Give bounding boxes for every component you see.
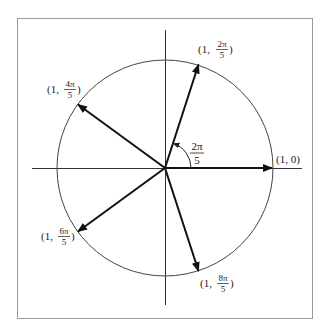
label-numerator: 6π	[59, 226, 69, 236]
vector-4pi-5	[78, 105, 165, 169]
label-prefix: (1,	[276, 153, 291, 166]
label-denominator: 5	[221, 284, 226, 294]
vector-6pi-5	[78, 168, 165, 232]
label-suffix: )	[77, 83, 81, 96]
label-prefix: (1,	[200, 277, 212, 290]
label-denominator: 5	[62, 237, 67, 247]
label-1-0-text: (1, 0)	[276, 153, 300, 166]
label-numerator: 4π	[65, 79, 75, 89]
label-1-4pi-5: (1, 4π 5 )	[47, 79, 81, 100]
label-1-8pi-5: (1, 8π 5 )	[200, 273, 234, 294]
label-suffix: )	[229, 43, 233, 56]
vectors	[78, 65, 272, 272]
label-prefix: (1,	[41, 230, 53, 243]
unit-circle-diagram: 2π 5 (1, 0) (1, 2π 5 ) (1, 4π 5 ) (1, 6π…	[0, 0, 329, 334]
label-suffix: )	[230, 277, 234, 290]
label-suffix: )	[296, 153, 300, 166]
angle-label-numerator: 2π	[191, 140, 203, 152]
label-denominator: 5	[220, 50, 225, 60]
label-prefix: (1,	[47, 83, 59, 96]
label-prefix: (1,	[198, 43, 210, 56]
vector-8pi-5	[165, 168, 199, 271]
label-suffix: )	[71, 230, 75, 243]
vector-2pi-5	[165, 65, 199, 169]
label-numerator: 8π	[218, 273, 228, 283]
label-numerator: 2π	[217, 39, 227, 49]
label-1-0: (1, 0)	[276, 153, 300, 166]
label-1-6pi-5: (1, 6π 5 )	[41, 226, 75, 247]
angle-label-denominator: 5	[194, 154, 200, 166]
label-1-2pi-5: (1, 2π 5 )	[198, 39, 233, 60]
angle-arc	[174, 144, 192, 169]
angle-label: 2π 5	[190, 140, 204, 166]
label-denominator: 5	[68, 90, 73, 100]
